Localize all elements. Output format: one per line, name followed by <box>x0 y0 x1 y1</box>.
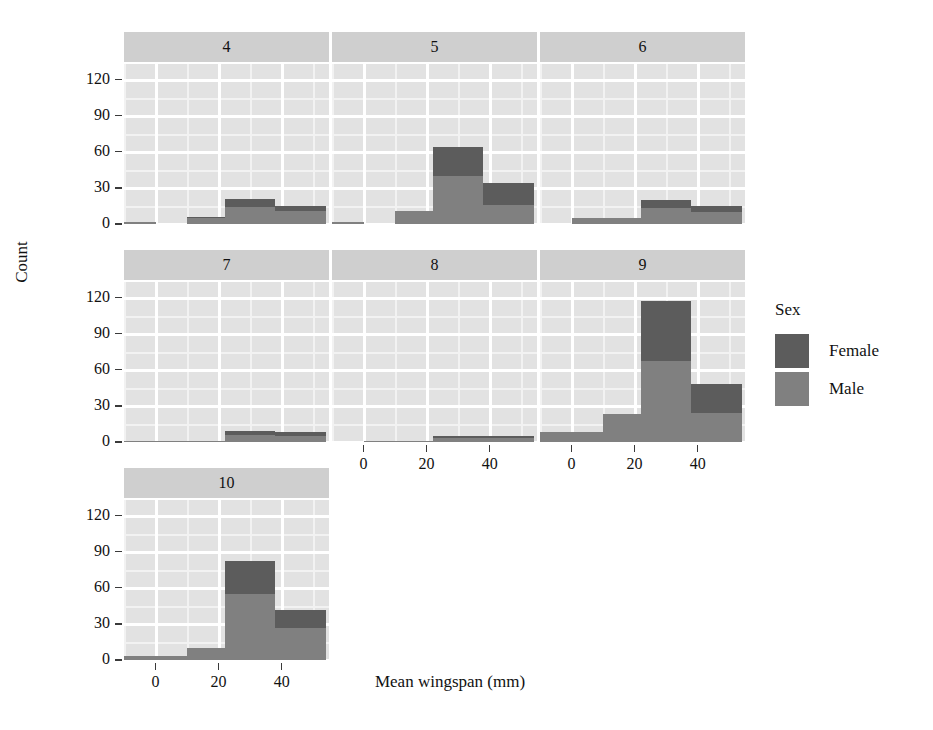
y-axis-tick-label: 90 <box>44 106 110 124</box>
legend-title: Sex <box>775 300 879 320</box>
gridline-minor-vertical <box>124 64 126 224</box>
x-axis-tick-label: 20 <box>605 455 665 473</box>
gridline-major-vertical <box>363 282 366 442</box>
bar-segment-male <box>433 176 483 224</box>
bar-segment-male <box>641 208 691 224</box>
gridline-major-vertical <box>155 64 158 224</box>
bar-segment-female <box>275 610 325 628</box>
x-axis-tick-mark <box>571 445 573 452</box>
bar-segment-female <box>275 432 325 436</box>
x-axis-tick-mark <box>363 445 365 452</box>
facet-panel-9: 9 <box>540 250 745 442</box>
x-axis-tick-label: 40 <box>668 455 728 473</box>
bar-segment-female <box>641 200 691 208</box>
y-axis-title: Count <box>12 202 36 322</box>
facet-panel-4: 4 <box>124 32 329 224</box>
bar-segment-male <box>124 222 156 224</box>
x-axis-tick-label: 40 <box>460 455 520 473</box>
bar-segment-male <box>540 432 572 442</box>
gridline-minor-vertical <box>395 282 397 442</box>
gridline-major-vertical <box>571 64 574 224</box>
facet-strip-label-7: 7 <box>124 250 329 280</box>
y-axis-tick-label: 0 <box>44 214 110 232</box>
y-axis-tick-mark <box>115 587 122 589</box>
bar-segment-female <box>275 206 325 211</box>
gridline-minor-vertical <box>729 64 731 224</box>
bar-segment-male <box>225 594 275 660</box>
y-axis-tick-mark <box>115 369 122 371</box>
bar-segment-male <box>433 438 483 442</box>
facet-panel-5: 5 <box>332 32 537 224</box>
y-axis-tick-mark <box>115 115 122 117</box>
gridline-minor-vertical <box>187 64 189 224</box>
y-axis-tick-label: 60 <box>44 142 110 160</box>
bar-segment-male <box>603 414 641 442</box>
bar-segment-female <box>691 384 741 413</box>
legend-swatch-male <box>775 372 809 406</box>
y-axis-tick-mark <box>115 297 122 299</box>
facet-strip-label-10: 10 <box>124 468 329 498</box>
bar-segment-male <box>275 436 325 442</box>
y-axis-tick-mark <box>115 623 122 625</box>
gridline-minor-vertical <box>540 282 542 442</box>
bar-segment-female <box>433 147 483 176</box>
bar-segment-male <box>483 438 533 442</box>
gridline-major-vertical <box>363 64 366 224</box>
plot-area-8 <box>332 282 537 442</box>
plot-area-5 <box>332 64 537 224</box>
facet-panel-10: 10 <box>124 468 329 660</box>
gridline-minor-vertical <box>187 282 189 442</box>
gridline-minor-vertical <box>540 64 542 224</box>
bar-segment-male <box>332 222 364 224</box>
x-axis-tick-mark <box>218 663 220 670</box>
plot-area-9 <box>540 282 745 442</box>
y-axis-tick-label: 0 <box>44 432 110 450</box>
bar-segment-male <box>187 648 225 660</box>
bar-segment-female <box>187 217 225 219</box>
bar-segment-male <box>603 218 641 224</box>
legend-item-female[interactable]: Female <box>775 334 879 368</box>
y-axis-tick-mark <box>115 515 122 517</box>
bar-segment-male <box>572 432 604 442</box>
gridline-minor-vertical <box>332 282 334 442</box>
legend-item-male[interactable]: Male <box>775 372 879 406</box>
gridline-major-vertical <box>426 282 429 442</box>
bar-segment-male <box>691 413 741 442</box>
y-axis-tick-mark <box>115 223 122 225</box>
facet-panel-6: 6 <box>540 32 745 224</box>
facet-panel-7: 7 <box>124 250 329 442</box>
legend-label-male: Male <box>829 379 864 399</box>
y-axis-tick-label: 60 <box>44 360 110 378</box>
x-axis-tick-mark <box>489 445 491 452</box>
plot-area-4 <box>124 64 329 224</box>
bar-segment-male <box>187 441 225 443</box>
bar-segment-male <box>641 361 691 442</box>
bar-segment-male <box>187 218 225 224</box>
x-axis-tick-label: 20 <box>397 455 457 473</box>
facet-strip-label-4: 4 <box>124 32 329 62</box>
bar-segment-female <box>691 206 741 212</box>
bar-segment-male <box>156 441 188 443</box>
bar-segment-female <box>433 436 483 438</box>
y-axis-tick-label: 90 <box>44 542 110 560</box>
bar-segment-male <box>275 211 325 224</box>
y-axis-tick-label: 30 <box>44 396 110 414</box>
y-axis-tick-mark <box>115 551 122 553</box>
bar-segment-male <box>691 212 741 224</box>
x-axis-tick-label: 40 <box>252 673 312 691</box>
bar-segment-male <box>395 211 433 224</box>
y-axis-tick-label: 0 <box>44 650 110 668</box>
gridline-minor-vertical <box>603 64 605 224</box>
y-axis-tick-label: 30 <box>44 178 110 196</box>
gridline-minor-vertical <box>458 282 460 442</box>
gridline-minor-vertical <box>250 282 252 442</box>
gridline-minor-vertical <box>124 500 126 660</box>
gridline-major-vertical <box>281 282 284 442</box>
facet-strip-label-9: 9 <box>540 250 745 280</box>
x-axis-tick-mark <box>634 445 636 452</box>
x-axis-tick-mark <box>155 663 157 670</box>
y-axis-tick-mark <box>115 405 122 407</box>
x-axis-tick-label: 20 <box>189 673 249 691</box>
gridline-major-vertical <box>571 282 574 442</box>
y-axis-tick-label: 120 <box>44 288 110 306</box>
